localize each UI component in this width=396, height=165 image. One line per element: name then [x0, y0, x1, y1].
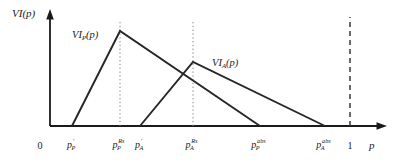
origin-tick-label: 0 — [38, 141, 43, 151]
tick-subscript: A — [139, 144, 143, 151]
tick-label-pP-prime: pP' — [67, 140, 77, 150]
curve-label-vi-principal-tail: (p) — [86, 29, 98, 40]
tick-superscript: ' — [141, 137, 142, 144]
tick-label-pP-Rs: pPRs — [113, 140, 128, 150]
curve-label-vi-agent-tail: (p) — [226, 57, 238, 68]
curve-label-vi-principal-sub: P — [82, 34, 86, 41]
tick-label-one: 1 — [348, 141, 353, 151]
tick-label-pA-prime: pA' — [135, 140, 145, 150]
tick-subscript: P — [71, 144, 75, 151]
tick-superscript: abs — [257, 137, 266, 144]
tick-superscript: Rs — [191, 137, 197, 144]
tick-subscript: P — [256, 144, 260, 151]
tick-subscript: P — [117, 144, 121, 151]
tick-label-pA-abs: pAabs — [316, 140, 333, 150]
tick-subscript: A — [190, 144, 194, 151]
y-axis-label: VI(p) — [12, 8, 35, 19]
x-axis — [50, 122, 387, 130]
tick-subscript: A — [321, 144, 325, 151]
x-axis-label: p — [369, 140, 375, 151]
curve-label-vi-agent: VIA(p) — [212, 58, 238, 69]
curve-label-vi-agent-main: VI — [212, 57, 222, 68]
curve-label-vi-agent-sub: A — [222, 62, 226, 69]
y-axis — [46, 9, 54, 126]
tick-superscript: ' — [73, 137, 74, 144]
tick-superscript: abs — [322, 137, 331, 144]
tick-label-pP-abs: pPabs — [251, 140, 268, 150]
curve-label-vi-principal-main: VI — [72, 29, 82, 40]
tick-superscript: Rs — [118, 137, 124, 144]
curve-vi-principal — [72, 31, 260, 126]
curve-label-vi-principal: VIP(p) — [72, 30, 98, 41]
tick-label-pA-Rs: pARs — [186, 140, 201, 150]
curve-vi-agent — [140, 62, 325, 126]
value-of-information-figure: VI(p) p 0 1 VIP(p) VIA(p) pP' pPRs pA' p… — [0, 0, 396, 165]
